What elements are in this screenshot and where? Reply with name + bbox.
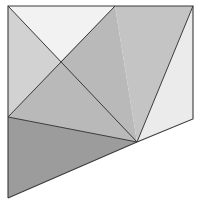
geometric-diagram xyxy=(0,0,200,204)
diagram-canvas xyxy=(0,0,200,204)
